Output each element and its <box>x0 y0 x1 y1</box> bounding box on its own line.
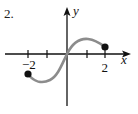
right-endpoint-closed <box>101 43 108 50</box>
graph-figure: 2. −2 2 x y <box>0 0 138 114</box>
function-graph: −2 2 x y <box>0 0 138 114</box>
x-tick-label-neg2: −2 <box>22 57 36 72</box>
x-axis-label: x <box>120 52 127 67</box>
x-tick-label-2: 2 <box>102 60 109 75</box>
y-axis-label: y <box>71 3 79 18</box>
